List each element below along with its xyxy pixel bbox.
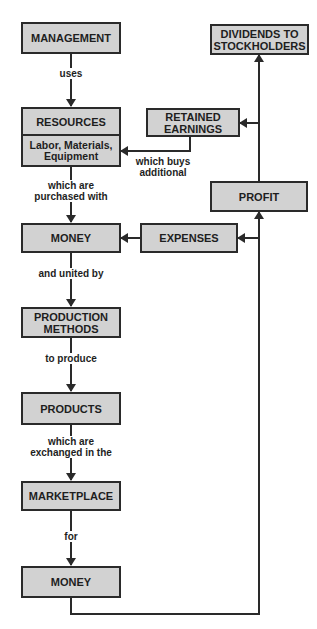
node-money-2-label: MONEY <box>51 576 91 588</box>
node-resources: RESOURCES Labor, Materials, Equipment <box>21 107 121 167</box>
edge-label-purchased: which are purchased with <box>31 180 111 202</box>
retained-earnings-line-2: EARNINGS <box>164 123 222 135</box>
node-production-methods: PRODUCTION METHODS <box>21 307 121 338</box>
node-expenses-label: EXPENSES <box>159 232 218 244</box>
node-management-label: MANAGEMENT <box>31 32 111 44</box>
edge-label-for: for <box>60 531 82 542</box>
node-profit: PROFIT <box>210 181 308 212</box>
node-money-2: MONEY <box>21 566 121 598</box>
buys-line-2: additional <box>139 167 186 178</box>
production-methods-line-1: PRODUCTION <box>34 311 108 323</box>
retained-earnings-line-1: RETAINED <box>165 111 220 123</box>
node-products-label: PRODUCTS <box>40 403 102 415</box>
exchanged-line-1: which are <box>48 436 94 447</box>
node-marketplace-label: MARKETPLACE <box>29 490 113 502</box>
node-dividends-label: DIVIDENDS TO STOCKHOLDERS <box>213 28 305 52</box>
buys-line-1: which buys <box>136 156 190 167</box>
production-methods-line-2: METHODS <box>43 323 98 335</box>
node-profit-label: PROFIT <box>239 191 279 203</box>
edge-label-exchanged: which are exchanged in the <box>26 436 116 458</box>
node-expenses: EXPENSES <box>140 223 238 253</box>
resources-detail-line-2: Equipment <box>44 150 98 162</box>
node-retained-earnings: RETAINED EARNINGS <box>146 108 240 137</box>
node-resources-detail: Labor, Materials, Equipment <box>23 136 119 165</box>
edge-label-united: and united by <box>34 268 108 279</box>
node-retained-earnings-label: RETAINED EARNINGS <box>164 111 222 135</box>
edge-label-uses: uses <box>56 68 86 79</box>
resources-title-text: RESOURCES <box>36 116 106 128</box>
node-money-1-label: MONEY <box>51 232 91 244</box>
node-dividends: DIVIDENDS TO STOCKHOLDERS <box>210 24 309 55</box>
dividends-line-1: DIVIDENDS TO <box>220 28 298 40</box>
exchanged-line-2: exchanged in the <box>30 447 112 458</box>
node-management: MANAGEMENT <box>21 22 121 54</box>
dividends-line-2: STOCKHOLDERS <box>213 40 305 52</box>
purchased-line-2: purchased with <box>34 191 107 202</box>
node-marketplace: MARKETPLACE <box>21 481 121 511</box>
edge-label-produce: to produce <box>42 353 100 364</box>
node-production-methods-label: PRODUCTION METHODS <box>34 311 108 335</box>
node-resources-title: RESOURCES <box>23 109 119 136</box>
resources-detail-text: Labor, Materials, Equipment <box>30 140 113 162</box>
edge-label-buys: which buys additional <box>132 156 194 178</box>
node-money-1: MONEY <box>21 223 121 253</box>
node-products: PRODUCTS <box>21 392 121 425</box>
purchased-line-1: which are <box>48 180 94 191</box>
